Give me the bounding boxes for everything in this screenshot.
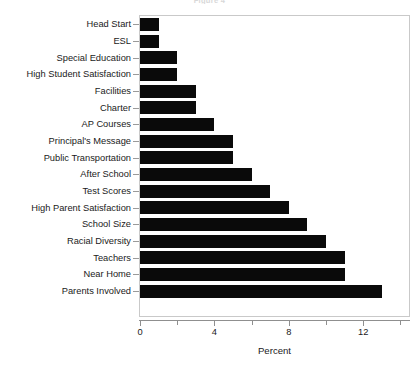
x-axis-tick-minor <box>252 321 253 325</box>
y-axis-tick <box>133 208 139 209</box>
y-axis-label: Public Transportation <box>0 153 131 163</box>
x-axis-title: Percent <box>139 345 410 356</box>
x-axis-tick-label: 8 <box>274 327 304 338</box>
y-axis-tick <box>133 258 139 259</box>
y-axis-tick <box>133 108 139 109</box>
y-axis-tick <box>133 158 139 159</box>
y-axis-tick <box>133 241 139 242</box>
y-axis-tick <box>133 274 139 275</box>
y-axis-label: ESL <box>0 36 131 46</box>
bar <box>140 35 159 48</box>
bar <box>140 118 214 131</box>
y-axis-tick <box>133 224 139 225</box>
y-axis-tick <box>133 291 139 292</box>
y-axis-category-labels: Head StartESLSpecial EducationHigh Stude… <box>0 16 131 316</box>
y-axis-label: Facilities <box>0 86 131 96</box>
y-axis-label: Head Start <box>0 19 131 29</box>
y-axis-label: Charter <box>0 103 131 113</box>
bar <box>140 101 196 114</box>
bar <box>140 18 159 31</box>
y-axis-label: After School <box>0 169 131 179</box>
bar <box>140 85 196 98</box>
x-axis-tick-label: 0 <box>125 327 155 338</box>
y-axis-label: Near Home <box>0 269 131 279</box>
bars-layer <box>140 16 409 316</box>
bar-chart: Figure 4 Head StartESLSpecial EducationH… <box>0 0 419 375</box>
x-axis-tick-minor <box>177 321 178 325</box>
y-axis-label: High Student Satisfaction <box>0 69 131 79</box>
bar <box>140 168 252 181</box>
y-axis-label: School Size <box>0 219 131 229</box>
bar <box>140 68 177 81</box>
y-axis-label: Racial Diversity <box>0 236 131 246</box>
y-axis-label: Test Scores <box>0 186 131 196</box>
y-axis-label: AP Courses <box>0 119 131 129</box>
y-axis-label: Special Education <box>0 53 131 63</box>
bar <box>140 251 345 264</box>
y-axis-label: Teachers <box>0 253 131 263</box>
y-axis-tick <box>133 74 139 75</box>
x-axis-line <box>139 320 410 321</box>
y-axis-label: Principal's Message <box>0 136 131 146</box>
x-axis-tick-label: 12 <box>348 327 378 338</box>
x-axis-tick-minor <box>326 321 327 325</box>
y-axis-label: Parents Involved <box>0 286 131 296</box>
bar <box>140 285 382 298</box>
y-axis-tick <box>133 124 139 125</box>
x-axis-tick-label: 4 <box>199 327 229 338</box>
chart-title: Figure 4 <box>0 0 419 4</box>
y-axis-label: High Parent Satisfaction <box>0 203 131 213</box>
x-axis-tick-major <box>214 321 215 326</box>
x-axis-tick-major <box>289 321 290 326</box>
bar <box>140 218 307 231</box>
y-axis-tick <box>133 24 139 25</box>
bar <box>140 135 233 148</box>
bar <box>140 185 270 198</box>
y-axis-tick <box>133 41 139 42</box>
x-axis-tick-minor <box>400 321 401 325</box>
y-axis-tick <box>133 191 139 192</box>
y-axis-tick <box>133 91 139 92</box>
bar <box>140 235 326 248</box>
bar <box>140 201 289 214</box>
bar <box>140 268 345 281</box>
y-axis-tick <box>133 174 139 175</box>
x-axis-tick-major <box>140 321 141 326</box>
y-axis-tick <box>133 58 139 59</box>
bar <box>140 151 233 164</box>
x-axis-tick-major <box>363 321 364 326</box>
y-axis-tick <box>133 141 139 142</box>
bar <box>140 51 177 64</box>
